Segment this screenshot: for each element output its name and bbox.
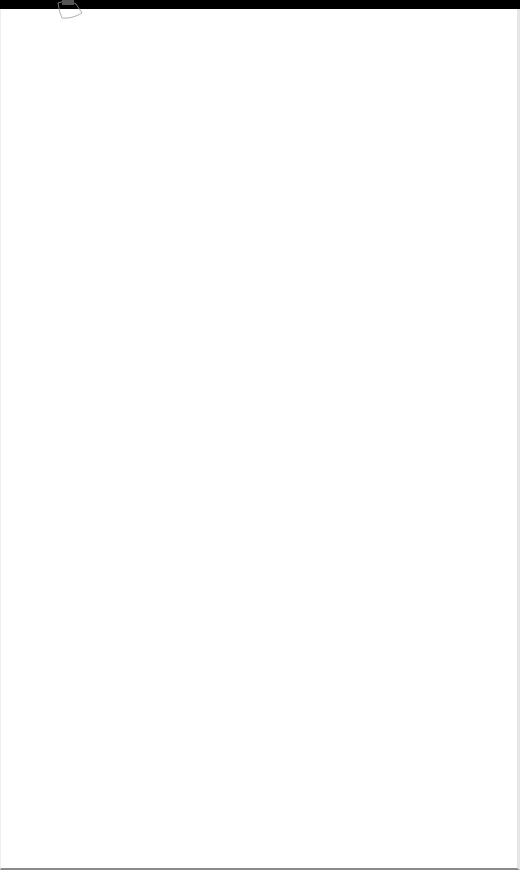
window-title [180,11,510,21]
sketch-shape-icon [52,0,86,24]
blank-window [0,9,520,870]
